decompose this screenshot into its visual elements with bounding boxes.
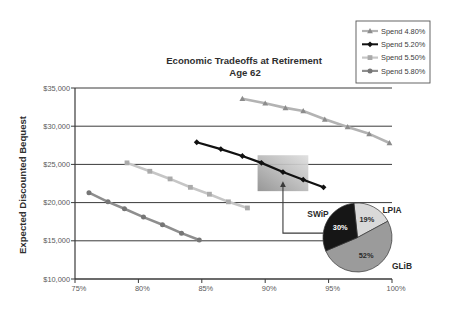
data-point-circle-icon — [105, 199, 110, 204]
pie-slice-value: 30% — [333, 223, 348, 232]
x-tick-label: 100% — [387, 284, 406, 293]
data-point-circle-icon — [160, 222, 165, 227]
pie-slice-label: GLiB — [392, 261, 412, 271]
x-tick-label: 85% — [198, 284, 213, 293]
pie-slice-label: SWiP — [307, 209, 329, 219]
legend-label: Spend 5.80% — [381, 67, 426, 76]
y-tick-label: $15,000 — [43, 236, 70, 245]
data-point-square-icon — [147, 169, 152, 174]
y-tick-label: $20,000 — [43, 198, 70, 207]
pie-slice-value: 52% — [359, 251, 374, 260]
y-tick-label: $25,000 — [43, 160, 70, 169]
x-tick-label: 90% — [262, 284, 277, 293]
data-point-diamond-icon — [218, 146, 224, 152]
data-point-square-icon — [226, 199, 231, 204]
y-tick-label: $10,000 — [43, 275, 70, 284]
y-tick-label: $35,000 — [43, 84, 70, 93]
chart-container: Economic Tradeoffs at Retirement Age 62 … — [0, 0, 449, 314]
legend-square-marker-icon — [368, 55, 373, 60]
legend-label: Spend 5.50% — [381, 53, 426, 62]
pie-slice-label: LPIA — [382, 205, 401, 215]
data-point-square-icon — [125, 160, 130, 165]
y-axis-label: Expected Discounted Bequest — [17, 115, 28, 254]
data-point-diamond-icon — [321, 184, 327, 190]
data-point-diamond-icon — [194, 139, 200, 145]
x-axis-ticks: 75%80%85%90%95%100% — [72, 279, 406, 293]
series-spend-5-80- — [86, 190, 201, 242]
series-spend-4-80- — [239, 96, 392, 146]
legend-circle-marker-icon — [368, 68, 373, 73]
y-axis-ticks: $10,000$15,000$20,000$25,000$30,000$35,0… — [43, 84, 75, 284]
data-point-square-icon — [245, 206, 250, 211]
data-point-circle-icon — [197, 238, 202, 243]
inset-pie-chart: 19%LPIA52%GLiB30%SWiP — [307, 203, 412, 272]
legend-label: Spend 4.80% — [381, 27, 426, 36]
pie-slice-value: 19% — [359, 215, 374, 224]
chart-subtitle: Age 62 — [229, 67, 260, 78]
data-point-circle-icon — [86, 190, 91, 195]
data-point-square-icon — [188, 185, 193, 190]
data-point-circle-icon — [179, 231, 184, 236]
data-point-circle-icon — [141, 215, 146, 220]
x-tick-label: 80% — [135, 284, 150, 293]
chart-canvas: Economic Tradeoffs at Retirement Age 62 … — [0, 0, 449, 314]
legend: Spend 4.80%Spend 5.20%Spend 5.50%Spend 5… — [356, 21, 430, 83]
data-point-square-icon — [207, 192, 212, 197]
data-point-diamond-icon — [239, 153, 245, 159]
chart-title: Economic Tradeoffs at Retirement — [166, 55, 322, 66]
data-point-square-icon — [168, 177, 173, 182]
x-tick-label: 95% — [325, 284, 340, 293]
data-point-circle-icon — [122, 206, 127, 211]
x-tick-label: 75% — [72, 284, 87, 293]
y-tick-label: $30,000 — [43, 122, 70, 131]
legend-label: Spend 5.20% — [381, 40, 426, 49]
